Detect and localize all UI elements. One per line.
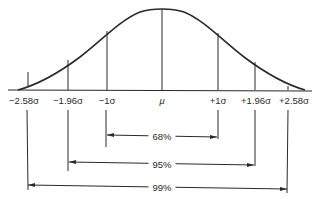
arrowhead-right-95 [247, 163, 254, 167]
arrowhead-left-68 [107, 133, 114, 137]
ext-neg258 [27, 110, 28, 190]
label-neg-1-sigma: −1σ [99, 95, 116, 106]
interval-99-label: 99% [148, 182, 175, 193]
label-neg-2-58-sigma: −2.58σ [9, 95, 39, 106]
label-mu: μ [159, 95, 164, 106]
baseline-axis [8, 90, 312, 91]
label-pos-1-sigma: +1σ [210, 95, 227, 106]
interval-95-label: 95% [148, 159, 175, 170]
arrowhead-right-99 [280, 187, 287, 191]
arrowhead-left-99 [28, 183, 35, 187]
label-pos-1-96-sigma: +1.96σ [241, 95, 271, 106]
label-neg-1-96-sigma: −1.96σ [53, 95, 83, 106]
arrowhead-right-68 [210, 135, 217, 139]
ext-pos258 [287, 110, 288, 193]
interval-68-label: 68% [148, 131, 175, 142]
arrowhead-left-95 [69, 160, 76, 164]
label-pos-2-58-sigma: +2.58σ [279, 95, 309, 106]
